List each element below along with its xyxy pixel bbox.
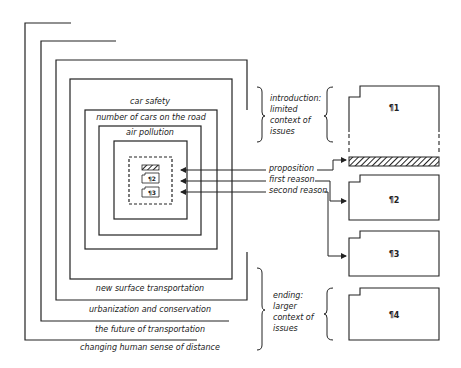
note-ending-line-2: larger: [273, 301, 314, 312]
note-intro-line-3: context of: [270, 115, 321, 126]
label-first-reason: first reason: [269, 175, 315, 185]
label-car-safety: car safety: [130, 97, 170, 107]
brace-intro-right: [324, 87, 333, 142]
label-second-reason: second reason: [269, 186, 327, 196]
connector-second-reason: [324, 192, 346, 256]
brace-ending-right: [324, 288, 333, 340]
label-new-surface-transportation: new surface transportation: [96, 284, 204, 294]
note-ending-line-1: ending:: [273, 290, 314, 301]
mini-proposition-bar: [142, 165, 159, 170]
label-number-of-cars: number of cars on the road: [96, 113, 206, 123]
brace-ending-left: [257, 268, 265, 350]
paragraph-3-label: ¶3: [389, 250, 400, 259]
note-ending-line-4: issues: [273, 323, 314, 334]
label-human-sense-of-distance: changing human sense of distance: [80, 343, 220, 353]
note-ending-line-3: context of: [273, 312, 314, 323]
mini-paragraph-3-label: ¶3: [148, 189, 156, 196]
label-air-pollution: air pollution: [126, 128, 174, 138]
note-intro-line-2: limited: [270, 104, 321, 115]
paragraph-1-label: ¶1: [389, 104, 400, 113]
brace-intro-left: [257, 87, 265, 142]
proposition-bar: [349, 157, 439, 166]
note-intro-line-1: introduction:: [270, 93, 321, 104]
mini-paragraph-2-label: ¶2: [148, 175, 156, 182]
paragraph-2-label: ¶2: [389, 196, 400, 205]
note-introduction: introduction: limited context of issues: [270, 93, 321, 137]
paragraph-4-label: ¶4: [389, 311, 400, 320]
label-future-of-transportation: the future of transportation: [95, 325, 205, 335]
label-proposition: proposition: [269, 164, 314, 174]
note-intro-line-4: issues: [270, 126, 321, 137]
connector-proposition: [317, 160, 346, 170]
note-ending: ending: larger context of issues: [273, 290, 314, 334]
label-urbanization: urbanization and conservation: [89, 305, 211, 315]
